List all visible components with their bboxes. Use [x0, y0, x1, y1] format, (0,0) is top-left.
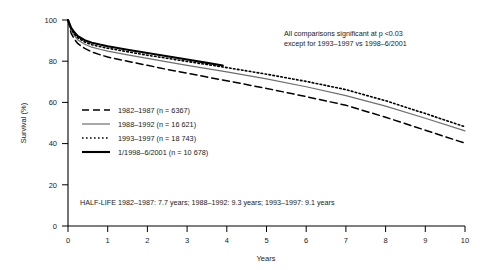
x-axis-title: Years — [257, 254, 276, 263]
y-tick-label-100: 100 — [44, 16, 57, 25]
significance-note-line1: All comparisons significant at p <0.03 — [284, 29, 403, 38]
y-tick-label-80: 80 — [49, 57, 57, 66]
x-tick-label-6: 6 — [304, 236, 308, 245]
y-axis-title: Survival (%) — [19, 102, 28, 143]
legend-label-1988-1992: 1988–1992 (n = 16 621) — [118, 120, 196, 129]
x-tick-label-5: 5 — [264, 236, 268, 245]
x-tick-label-9: 9 — [423, 236, 427, 245]
x-tick-label-0: 0 — [66, 236, 70, 245]
legend-label-1982-1987: 1982–1987 (n = 6367) — [118, 106, 190, 115]
x-tick-label-10: 10 — [461, 236, 469, 245]
survival-curve-figure: 100 80 60 40 20 0 Survival (%) 0 1 2 3 4… — [0, 0, 492, 270]
x-tick-label-4: 4 — [225, 236, 229, 245]
y-tick-label-40: 40 — [49, 139, 57, 148]
y-tick-label-0: 0 — [53, 222, 57, 231]
curve-1-1998-6-2001 — [68, 20, 223, 66]
legend-label-1998-2001: 1/1998–6/2001 (n = 10 678) — [118, 148, 208, 157]
x-tick-label-7: 7 — [344, 236, 348, 245]
x-tick-label-1: 1 — [106, 236, 110, 245]
half-life-note: HALF-LIFE 1982–1987: 7.7 years; 1988–199… — [80, 198, 335, 207]
x-axis-ticks — [68, 226, 465, 232]
x-tick-label-3: 3 — [185, 236, 189, 245]
legend-label-1993-1997: 1993–1997 (n = 18 743) — [118, 134, 196, 143]
y-tick-label-20: 20 — [49, 181, 57, 190]
y-axis-ticks — [62, 20, 68, 226]
significance-note-line2: except for 1993–1997 vs 1998–6/2001 — [284, 39, 407, 48]
y-tick-label-60: 60 — [49, 98, 57, 107]
chart-svg: 100 80 60 40 20 0 Survival (%) 0 1 2 3 4… — [0, 0, 492, 270]
x-tick-label-2: 2 — [145, 236, 149, 245]
legend: 1982–1987 (n = 6367) 1988–1992 (n = 16 6… — [82, 106, 208, 157]
x-tick-label-8: 8 — [384, 236, 388, 245]
